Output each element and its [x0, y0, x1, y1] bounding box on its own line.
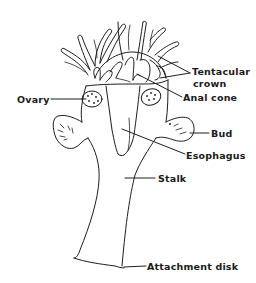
bud-drawing	[53, 115, 194, 148]
ovary-right	[139, 86, 163, 108]
label-stalk: Stalk	[158, 173, 186, 184]
organism-drawing	[0, 0, 256, 283]
entoproct-diagram: Tentacular crown Anal cone Ovary Bud Eso…	[0, 0, 256, 283]
leader-attachment-disk	[124, 266, 146, 267]
label-bud: Bud	[211, 128, 232, 139]
label-ovary: Ovary	[17, 94, 50, 105]
label-attachment-disk: Attachment disk	[147, 261, 238, 272]
label-anal-cone: Anal cone	[183, 92, 237, 103]
label-esophagus: Esophagus	[186, 150, 246, 161]
leader-lines	[51, 56, 209, 267]
label-tentacular-crown-line1: Tentacular	[192, 66, 250, 77]
tentacular-crown-drawing	[61, 21, 179, 86]
calyx-drawing	[81, 80, 168, 156]
label-tentacular-crown-line2: crown	[193, 78, 226, 89]
leader-esophagus	[122, 129, 185, 154]
stalk-drawing	[74, 138, 156, 268]
